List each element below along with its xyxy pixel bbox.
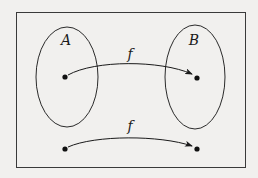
function-mapping-diagram: A B f f xyxy=(0,0,258,178)
mapping-inside-sets: f xyxy=(62,46,199,81)
codomain-point xyxy=(194,146,199,151)
set-b-label: B xyxy=(188,32,199,48)
mapping-arrow xyxy=(68,138,192,147)
diagram-frame xyxy=(17,13,246,168)
function-label: f xyxy=(126,46,135,62)
diagram-svg: A B f f xyxy=(0,0,258,178)
function-label: f xyxy=(126,118,135,134)
set-a-label: A xyxy=(59,32,71,48)
codomain-point xyxy=(194,75,199,80)
domain-point xyxy=(62,74,67,79)
domain-point xyxy=(62,146,67,151)
mapping-arrow xyxy=(68,64,192,75)
mapping-standalone: f xyxy=(62,118,199,152)
